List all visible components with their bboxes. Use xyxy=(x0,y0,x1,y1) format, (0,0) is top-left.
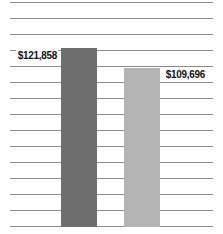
gridline xyxy=(10,114,213,115)
bar-1-value-label: $121,858 xyxy=(16,49,59,61)
gridline xyxy=(10,66,213,67)
bar-2 xyxy=(124,68,160,227)
gridline xyxy=(10,18,213,19)
bar-1 xyxy=(61,48,97,227)
gridline xyxy=(10,210,213,211)
gridline xyxy=(10,130,213,131)
gridline xyxy=(10,162,213,163)
gridline xyxy=(10,2,213,3)
gridline xyxy=(10,146,213,147)
gridline xyxy=(10,98,213,99)
gridline xyxy=(10,34,213,35)
gridline xyxy=(10,194,213,195)
gridline xyxy=(10,226,213,227)
gridline xyxy=(10,178,213,179)
bar-2-value-label: $109,696 xyxy=(164,68,207,80)
bar-chart: $121,858 $109,696 xyxy=(0,0,223,234)
gridline xyxy=(10,82,213,83)
